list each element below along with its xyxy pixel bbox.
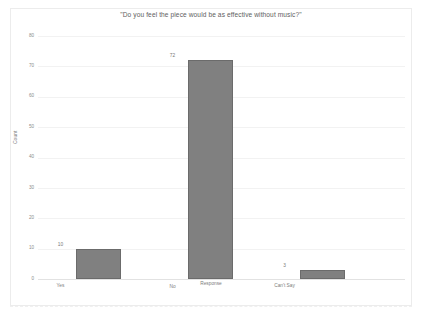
x-axis-title: Response [181, 281, 241, 287]
bar-value-yes: 10 [41, 242, 81, 248]
y-tick-label-60: 60 [8, 93, 34, 98]
bar-yes[interactable] [76, 249, 121, 279]
y-tick-label-0: 0 [8, 276, 34, 281]
x-tick-label-cant-say: Can't Say [255, 283, 315, 289]
gridline-80 [38, 36, 405, 37]
y-axis-title: Count [12, 131, 18, 144]
bar-no[interactable] [188, 60, 233, 279]
chart-page: "Do you feel the piece would be as effec… [0, 0, 422, 318]
y-tick-label-50: 50 [8, 124, 34, 129]
y-tick-label-10: 10 [8, 245, 34, 250]
bar-cant-say[interactable] [300, 270, 345, 279]
y-tick-label-30: 30 [8, 185, 34, 190]
plot-area [38, 36, 405, 279]
y-tick-label-80: 80 [8, 33, 34, 38]
page-footer-rule [10, 306, 412, 307]
y-tick-label-20: 20 [8, 215, 34, 220]
bar-value-cant-say: 3 [265, 263, 305, 269]
y-tick-label-40: 40 [8, 154, 34, 159]
axis-baseline [38, 279, 405, 280]
chart-title: "Do you feel the piece would be as effec… [0, 10, 422, 19]
x-tick-label-yes: Yes [31, 283, 91, 289]
bar-value-no: 72 [153, 53, 193, 59]
y-tick-label-70: 70 [8, 63, 34, 68]
